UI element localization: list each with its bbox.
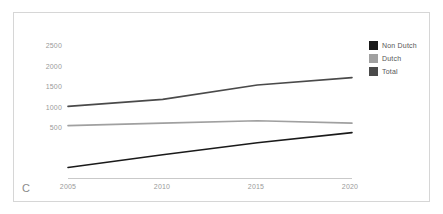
legend-item-dutch[interactable]: Dutch	[369, 54, 417, 63]
legend-item-total[interactable]: Total	[369, 67, 417, 76]
series-group	[68, 78, 352, 168]
chart-figure: 2500 2000 1500 1000 500 2005 2010 2015 2…	[0, 0, 443, 214]
y-tick-label-500: 500	[28, 124, 62, 131]
series-line-dutch	[68, 121, 352, 126]
x-tick-label-2015: 2015	[236, 183, 276, 190]
chart-legend: Non Dutch Dutch Total	[369, 41, 417, 76]
panel-letter: C	[22, 182, 30, 194]
series-line-total	[68, 78, 352, 107]
legend-label-total: Total	[382, 68, 398, 75]
line-chart-plot	[0, 0, 443, 214]
y-tick-label-1000: 1000	[28, 104, 62, 111]
y-tick-label-2500: 2500	[28, 42, 62, 49]
legend-swatch-dutch	[369, 54, 378, 63]
legend-swatch-total	[369, 67, 378, 76]
x-tick-label-2005: 2005	[48, 183, 88, 190]
legend-label-dutch: Dutch	[382, 55, 401, 62]
y-tick-label-1500: 1500	[28, 83, 62, 90]
legend-swatch-non-dutch	[369, 41, 378, 50]
series-line-non-dutch	[68, 133, 352, 168]
legend-label-non-dutch: Non Dutch	[382, 42, 417, 49]
x-tick-label-2020: 2020	[330, 183, 370, 190]
y-tick-label-2000: 2000	[28, 63, 62, 70]
legend-item-non-dutch[interactable]: Non Dutch	[369, 41, 417, 50]
x-tick-label-2010: 2010	[142, 183, 182, 190]
